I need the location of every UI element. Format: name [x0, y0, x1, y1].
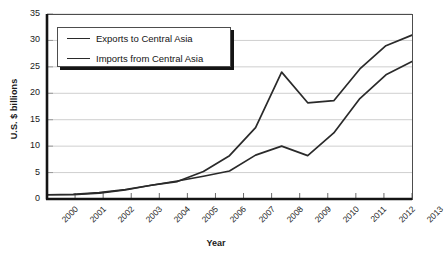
series-line-imports — [47, 62, 412, 195]
legend-label-imports: Imports from Central Asia — [96, 53, 203, 64]
y-tick-label: 25 — [14, 61, 40, 71]
legend-label-exports: Exports to Central Asia — [96, 33, 193, 44]
legend: Exports to Central Asia Imports from Cen… — [57, 27, 231, 67]
legend-item-imports: Imports from Central Asia — [58, 48, 230, 68]
y-tick-label: 10 — [14, 140, 40, 150]
y-tick-label: 15 — [14, 114, 40, 124]
legend-item-exports: Exports to Central Asia — [58, 28, 230, 48]
y-tick-label: 5 — [14, 167, 40, 177]
legend-line-swatch-imports — [67, 58, 90, 59]
y-tick-label: 35 — [14, 8, 40, 18]
x-axis-title: Year — [0, 238, 432, 248]
y-tick-label: 20 — [14, 87, 40, 97]
legend-line-swatch-exports — [67, 38, 90, 39]
y-tick-label: 30 — [14, 34, 40, 44]
y-tick-label: 0 — [14, 193, 40, 203]
y-axis-title: U.S. $ billions — [9, 73, 19, 145]
